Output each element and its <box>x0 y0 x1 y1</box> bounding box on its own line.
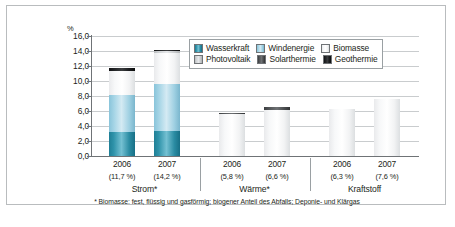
legend-swatch-windenergie <box>256 44 265 53</box>
bar-segment-wasserkraft <box>109 132 135 156</box>
bar-segment-solarthermie <box>264 107 290 109</box>
legend-label: Photovoltaik <box>206 55 250 64</box>
x-tick-total: (14,2 %) <box>141 172 193 181</box>
bar <box>219 113 245 157</box>
chart-frame: % 16,014,012,010,08,06,04,02,00,0 Wasser… <box>6 5 446 205</box>
x-axis-line <box>91 156 419 157</box>
y-tick-mark <box>87 51 92 52</box>
chart-footnote: * Biomasse: fest, flüssig und gasförmig;… <box>7 198 447 205</box>
bar-segment-solarthermie <box>219 113 245 115</box>
bar <box>109 68 135 156</box>
y-tick-mark <box>87 126 92 127</box>
figure-caption <box>8 214 455 225</box>
legend-swatch-photovoltaik <box>194 55 203 64</box>
bar <box>329 109 355 156</box>
bar-segment-biomasse <box>219 114 245 156</box>
bar <box>264 107 290 157</box>
y-axis-tick-labels: 16,014,012,010,08,06,04,02,00,0 <box>55 32 89 160</box>
legend-row-1: WasserkraftWindenergieBiomasse <box>194 43 377 54</box>
group-label: Wärme* <box>195 184 315 194</box>
legend-swatch-wasserkraft <box>194 44 203 53</box>
legend-item-windenergie: Windenergie <box>256 44 314 53</box>
bar-segment-geothermie <box>109 68 135 70</box>
legend-swatch-geothermie <box>323 55 332 64</box>
bar-segment-biomasse <box>264 110 290 157</box>
gridline <box>92 111 419 112</box>
bar-segment-biomasse <box>374 99 400 156</box>
group-separator <box>310 158 311 191</box>
y-tick-mark <box>87 111 92 112</box>
bar-segment-photovoltaik <box>109 71 135 72</box>
gridline <box>92 96 419 97</box>
x-tick-total: (7,6 %) <box>361 172 413 181</box>
legend-label: Windenergie <box>268 44 314 53</box>
bar-segment-photovoltaik <box>154 51 180 53</box>
bar-segment-geothermie <box>264 107 290 108</box>
legend-row-2: PhotovoltaikSolarthermieGeothermie <box>194 54 377 65</box>
y-tick-mark <box>87 156 92 157</box>
bar-segment-geothermie <box>154 50 180 52</box>
x-tick-total: (6,6 %) <box>251 172 303 181</box>
bar-segment-windenergie <box>154 84 180 131</box>
gridline <box>92 81 419 82</box>
legend-label: Solarthermie <box>269 55 315 64</box>
legend-label: Wasserkraft <box>206 44 249 53</box>
x-tick-year: 2007 <box>251 159 303 169</box>
y-tick-mark <box>87 66 92 67</box>
y-tick-mark <box>87 141 92 142</box>
group-label: Kraftstoff <box>305 184 425 194</box>
bar-segment-wasserkraft <box>154 131 180 156</box>
bar <box>374 99 400 156</box>
bar-segment-biomasse <box>154 53 180 85</box>
gridline <box>92 36 419 37</box>
x-tick-year: 2007 <box>361 159 413 169</box>
y-tick-mark <box>87 81 92 82</box>
group-separator <box>200 158 201 191</box>
legend-item-photovoltaik: Photovoltaik <box>194 55 250 64</box>
y-tick-mark <box>87 96 92 97</box>
bar-segment-biomasse <box>109 71 135 95</box>
legend-item-geothermie: Geothermie <box>323 55 378 64</box>
gridline <box>92 126 419 127</box>
gridline <box>92 141 419 142</box>
legend-swatch-biomasse <box>321 44 330 53</box>
bar-segment-biomasse <box>329 109 355 156</box>
legend-label: Biomasse <box>333 44 369 53</box>
y-tick-mark <box>87 36 92 37</box>
legend-item-wasserkraft: Wasserkraft <box>194 44 249 53</box>
legend-item-solarthermie: Solarthermie <box>257 55 315 64</box>
bar <box>154 50 180 157</box>
chart-legend: WasserkraftWindenergieBiomasse Photovolt… <box>189 39 383 69</box>
group-label: Strom* <box>85 184 205 194</box>
legend-item-biomasse: Biomasse <box>321 44 369 53</box>
x-tick-year: 2007 <box>141 159 193 169</box>
bar-segment-windenergie <box>109 95 135 132</box>
legend-swatch-solarthermie <box>257 55 266 64</box>
legend-label: Geothermie <box>335 55 378 64</box>
